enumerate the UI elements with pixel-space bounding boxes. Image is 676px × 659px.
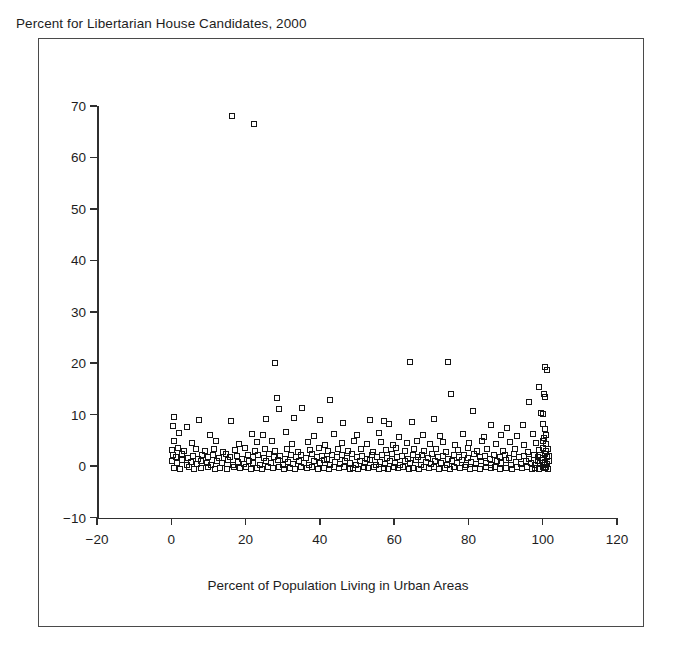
plot-title: Percent for Libertarian House Candidates… <box>16 16 307 31</box>
figure-frame <box>38 38 644 627</box>
